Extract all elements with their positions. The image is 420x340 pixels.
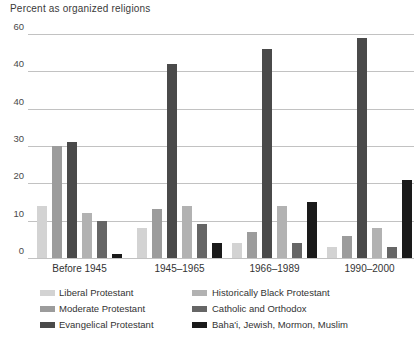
bar-evangelical-protestant bbox=[167, 64, 177, 258]
legend-label: Catholic and Orthodox bbox=[212, 303, 307, 314]
bar-catholic-and-orthodox bbox=[97, 221, 107, 258]
legend-label: Evangelical Protestant bbox=[59, 319, 154, 330]
bar-catholic-and-orthodox bbox=[292, 243, 302, 258]
bar-catholic-and-orthodox bbox=[387, 247, 397, 258]
bar-moderate-protestant bbox=[52, 146, 62, 258]
bar-historically-black-protestant bbox=[82, 213, 92, 258]
bar-evangelical-protestant bbox=[67, 142, 77, 258]
y-gridline bbox=[28, 34, 414, 35]
x-tick-label: Before 1945 bbox=[32, 263, 128, 274]
legend-swatch-historically-black-protestant bbox=[192, 290, 207, 296]
bar-moderate-protestant bbox=[342, 236, 352, 258]
x-tick-label: 1966–1989 bbox=[227, 263, 323, 274]
bar-baha-i-jewish-mormon-muslim bbox=[112, 254, 122, 258]
y-tick-label: 20 bbox=[0, 170, 24, 181]
legend-label: Moderate Protestant bbox=[59, 303, 145, 314]
bar-evangelical-protestant bbox=[262, 49, 272, 258]
legend-swatch-liberal-protestant bbox=[40, 290, 55, 296]
legend-swatch-baha-i-jewish-mormon-muslim bbox=[192, 322, 207, 328]
legend-swatch-catholic-and-orthodox bbox=[192, 306, 207, 312]
y-tick-label: 10 bbox=[0, 208, 24, 219]
legend-swatch-evangelical-protestant bbox=[40, 322, 55, 328]
bar-baha-i-jewish-mormon-muslim bbox=[212, 243, 222, 258]
y-tick-label: 40 bbox=[0, 58, 24, 69]
bar-historically-black-protestant bbox=[277, 206, 287, 258]
bar-baha-i-jewish-mormon-muslim bbox=[307, 202, 317, 258]
bar-chart-figure: Percent as organized religions 010203040… bbox=[0, 0, 420, 340]
x-tick-label: 1990–2000 bbox=[322, 263, 418, 274]
y-tick-label: 60 bbox=[0, 21, 24, 32]
bar-catholic-and-orthodox bbox=[197, 224, 207, 258]
bar-historically-black-protestant bbox=[372, 228, 382, 258]
y-gridline bbox=[28, 258, 414, 259]
bar-liberal-protestant bbox=[37, 206, 47, 258]
y-tick-label: 40 bbox=[0, 96, 24, 107]
y-tick-label: 0 bbox=[0, 245, 24, 256]
bar-moderate-protestant bbox=[247, 232, 257, 258]
bar-historically-black-protestant bbox=[182, 206, 192, 258]
y-tick-label: 30 bbox=[0, 133, 24, 144]
bar-liberal-protestant bbox=[232, 243, 242, 258]
bar-evangelical-protestant bbox=[357, 38, 367, 258]
bar-baha-i-jewish-mormon-muslim bbox=[402, 180, 412, 258]
bar-liberal-protestant bbox=[327, 247, 337, 258]
legend-label: Liberal Protestant bbox=[59, 287, 133, 298]
legend-label: Historically Black Protestant bbox=[212, 287, 330, 298]
x-tick-label: 1945–1965 bbox=[132, 263, 228, 274]
legend-swatch-moderate-protestant bbox=[40, 306, 55, 312]
bar-moderate-protestant bbox=[152, 209, 162, 258]
legend-label: Baha'i, Jewish, Mormon, Muslim bbox=[212, 319, 348, 330]
bar-liberal-protestant bbox=[137, 228, 147, 258]
chart-title: Percent as organized religions bbox=[10, 3, 151, 14]
